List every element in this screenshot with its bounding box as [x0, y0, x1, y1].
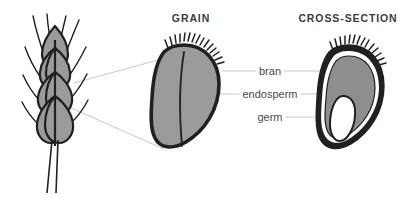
- label-germ: germ: [254, 111, 285, 123]
- diagram-canvas: [0, 0, 410, 197]
- wheat-stem: [47, 140, 58, 193]
- stem-line-left: [47, 140, 52, 193]
- label-endosperm: endosperm: [239, 88, 300, 100]
- wheat-grain-cross-section: [316, 35, 386, 149]
- label-bran: bran: [256, 65, 284, 77]
- wheat-stalk: [22, 14, 88, 193]
- stem-line-right: [56, 140, 58, 193]
- wheat-grain: [151, 33, 224, 147]
- section-title-cross-section: CROSS-SECTION: [298, 12, 397, 24]
- leader-line-stalk-top: [74, 60, 158, 83]
- section-title-grain: GRAIN: [172, 12, 210, 24]
- grain-body: [151, 45, 219, 147]
- wheat-anatomy-diagram: GRAIN CROSS-SECTION bran endosperm germ: [0, 0, 410, 197]
